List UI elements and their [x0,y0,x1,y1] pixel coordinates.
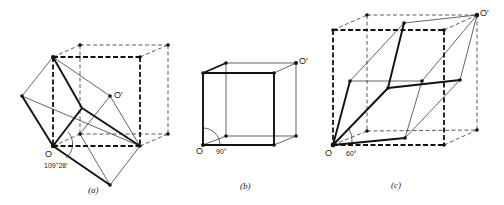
cube-edge [140,134,168,146]
lattice-point [442,143,446,147]
lattice-point [138,144,142,148]
angle-arc [66,132,73,158]
rhomb-edge [80,134,110,185]
lattice-point [386,86,390,90]
angle-label: 60° [346,150,357,157]
angle-arc [349,129,352,142]
lattice-point [403,136,407,140]
rhomb-edge [22,96,140,146]
cube-edge [367,130,477,131]
target-label: O′ [299,56,308,66]
origin-point [331,143,336,148]
target-label: O′ [114,90,123,100]
lattice-point [224,61,228,65]
panel-b: O′ O 90° (b) [196,56,308,191]
lattice-point [272,71,276,75]
lattice-point [475,128,479,132]
panel-c: O′ O 60° (c) [325,8,489,190]
cube-edge [203,136,226,145]
lattice-point [294,61,298,65]
rhomb-edge-bold [388,23,404,88]
origin-label: O [45,149,52,159]
rhomb-edge-bold [53,57,82,108]
cube-edge [140,45,168,57]
origin-label: O [196,146,203,156]
rhomb-edge-bold [82,108,140,146]
lattice-point [51,55,55,59]
lattice-point [348,79,352,83]
lattice-point [475,13,479,17]
lattice-point [420,79,424,83]
lattice-point [166,132,170,136]
lattice-point [108,183,112,187]
lattice-point [201,71,205,75]
rhomb-edge [422,15,477,81]
rhomb-edge [22,57,53,96]
rhomb-edge [110,146,140,185]
lattice-point [402,21,406,25]
cube-edge [444,15,477,30]
lattice-point [166,43,170,47]
cube-edge [53,45,80,57]
lattice-point [138,55,142,59]
panel-caption: (c) [391,180,401,190]
lattice-point [224,134,228,138]
lattice-point [331,28,335,32]
cube-edge-bold [203,63,226,73]
lattice-point [78,43,82,47]
cube-edge [274,136,296,145]
lattice-point [272,143,276,147]
cube-edge [274,63,296,73]
panel-caption: (b) [240,181,251,191]
origin-label: O [325,148,332,158]
angle-arc [203,128,220,145]
rhomb-edge-bold [333,138,405,145]
lattice-point [108,94,112,98]
rhombohedral-cells-figure: O′ O 109°28′ (a) O′ O 90° (b) [0,0,504,205]
rhomb-edge [110,96,140,146]
target-label: O′ [480,8,489,18]
lattice-point [78,132,82,136]
panel-a: O′ O 109°28′ (a) [20,43,170,195]
lattice-point [20,94,24,98]
lattice-point [442,28,446,32]
lattice-point [365,13,369,17]
origin-point [51,144,55,148]
rhomb-edge [405,80,460,138]
rhomb-edge-bold [22,96,53,146]
panel-caption: (a) [88,185,99,195]
angle-label: 90° [216,148,227,155]
lattice-point [294,134,298,138]
cube-edge [444,130,477,145]
cube-edge [333,15,367,30]
rhomb-edge [53,57,110,96]
rhomb-edge [80,96,110,134]
rhomb-edge-bold [53,108,82,146]
lattice-point [365,129,369,133]
lattice-point [458,78,462,82]
rhomb-edge [404,15,477,23]
angle-label: 109°28′ [44,162,68,169]
